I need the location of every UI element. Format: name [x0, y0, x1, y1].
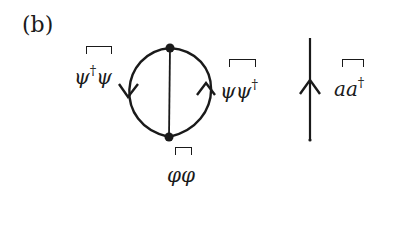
left-arc-edge	[129, 48, 170, 137]
right-arc-edge	[169, 48, 211, 137]
right-arc-label: ψψ†	[220, 78, 258, 101]
left-contraction-bracket	[86, 46, 112, 54]
a-a: aa	[334, 77, 358, 101]
right-contraction-bracket	[229, 59, 256, 67]
middle-contraction-bracket	[175, 147, 192, 155]
middle-line-label: φφ	[167, 165, 195, 185]
top-vertex-icon	[166, 44, 175, 53]
propagator-end-dot-icon	[308, 138, 311, 141]
right-psi: ψψ	[220, 79, 251, 103]
phi-phi: φφ	[167, 163, 195, 187]
a-contraction-bracket	[342, 59, 364, 67]
left-arc-label: ψ†ψ	[74, 64, 112, 87]
a-dagger: †	[358, 75, 365, 90]
middle-line-edge	[169, 48, 170, 137]
right-line-label: aa†	[334, 76, 364, 99]
bottom-vertex-icon	[165, 133, 174, 142]
left-psi-2: ψ	[96, 65, 112, 89]
left-psi-1: ψ	[74, 65, 90, 89]
right-dagger: †	[251, 77, 258, 92]
